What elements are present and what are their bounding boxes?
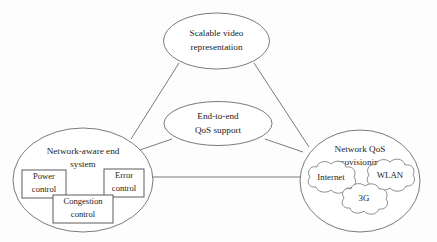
scalable-video-ellipse — [164, 13, 270, 69]
network-aware-label-line1: Network-aware end — [47, 146, 120, 156]
box-error-control[interactable]: Error control — [104, 169, 144, 197]
end-to-end-qos-label-line2: QoS support — [195, 125, 242, 135]
error-control-label-line1: Error — [115, 170, 133, 180]
congestion-control-label-line1: Congestion — [63, 196, 103, 206]
connector-end-to-end-to-network-qos — [265, 139, 303, 152]
power-control-label-line1: Power — [33, 171, 55, 181]
node-network-qos-provisioning[interactable]: Network QoS provisioning Internet WLAN 3… — [300, 130, 420, 232]
box-power-control[interactable]: Power control — [22, 170, 66, 198]
threeg-cloud-label: 3G — [359, 193, 370, 203]
power-control-label-line2: control — [32, 184, 57, 194]
scalable-video-label-line2: representation — [190, 42, 242, 52]
network-aware-label-line2: system — [70, 159, 96, 169]
node-scalable-video[interactable]: Scalable video representation — [164, 13, 270, 69]
scalable-video-label-line1: Scalable video — [190, 28, 244, 38]
diagram-svg: Scalable video representation End-to-end… — [0, 0, 437, 242]
wlan-cloud-label: WLAN — [377, 170, 404, 180]
node-end-to-end-qos[interactable]: End-to-end QoS support — [164, 102, 272, 146]
end-to-end-qos-label-line1: End-to-end — [197, 111, 239, 121]
end-to-end-qos-ellipse — [164, 102, 272, 146]
internet-cloud-label: Internet — [317, 172, 345, 182]
node-network-aware-end-system[interactable]: Network-aware end system Power control E… — [13, 128, 153, 232]
congestion-control-label-line2: control — [71, 209, 96, 219]
error-control-label-line2: control — [112, 183, 137, 193]
network-qos-label-line1: Network QoS — [335, 144, 386, 154]
diagram-canvas: Scalable video representation End-to-end… — [0, 0, 437, 242]
box-congestion-control[interactable]: Congestion control — [53, 195, 113, 223]
